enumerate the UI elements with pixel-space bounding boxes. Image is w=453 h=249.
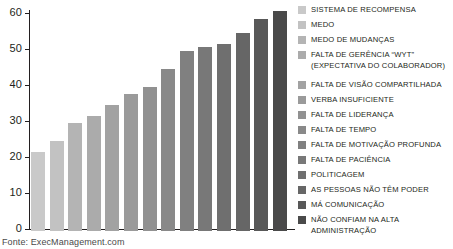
legend-item-label: NÃO CONFIAM NA ALTA ADMINISTRAÇÃO bbox=[311, 214, 399, 236]
legend-item: FALTA DE GERÊNCIA “WYT” (EXPECTATIVA DO … bbox=[298, 49, 453, 79]
legend-item-label: VERBA INSUFICIENTE bbox=[311, 94, 394, 105]
legend-item: POLITICAGEM bbox=[298, 169, 453, 184]
legend-color-swatch bbox=[298, 216, 306, 224]
bar bbox=[236, 33, 250, 231]
legend-item: FALTA DE LIDERANÇA bbox=[298, 109, 453, 124]
bar bbox=[198, 47, 212, 231]
legend-color-swatch bbox=[298, 201, 306, 209]
bar bbox=[161, 69, 175, 231]
bar bbox=[105, 105, 119, 231]
legend-color-swatch bbox=[298, 126, 306, 134]
legend-color-swatch bbox=[298, 156, 306, 164]
legend-item-label: FALTA DE MOTIVAÇÃO PROFUNDA bbox=[311, 139, 441, 150]
legend-item: NÃO CONFIAM NA ALTA ADMINISTRAÇÃO bbox=[298, 214, 453, 244]
bar-chart-figure: 0102030405060 bbox=[0, 0, 298, 249]
bar bbox=[217, 44, 231, 231]
legend-item-label: FALTA DE GERÊNCIA “WYT” (EXPECTATIVA DO … bbox=[311, 49, 445, 71]
bar bbox=[87, 116, 101, 231]
legend-item: MEDO DE MUDANÇAS bbox=[298, 34, 453, 49]
legend-item-label: MÁ COMUNICAÇÃO bbox=[311, 199, 384, 210]
source-note: Fonte: ExecManagement.com bbox=[2, 237, 125, 247]
legend-item-label: AS PESSOAS NÃO TÊM PODER bbox=[311, 184, 429, 195]
legend-color-swatch bbox=[298, 186, 306, 194]
bars-container bbox=[0, 0, 298, 230]
legend-color-swatch bbox=[298, 81, 306, 89]
bar bbox=[31, 152, 45, 231]
legend-item-label: MEDO DE MUDANÇAS bbox=[311, 34, 394, 45]
legend-item-label: SISTEMA DE RECOMPENSA bbox=[311, 4, 416, 15]
bar bbox=[254, 19, 268, 231]
chart-legend: SISTEMA DE RECOMPENSAMEDOMEDO DE MUDANÇA… bbox=[298, 0, 453, 249]
legend-item-label: FALTA DE VISÃO COMPARTILHADA bbox=[311, 79, 442, 90]
legend-item: MEDO bbox=[298, 19, 453, 34]
legend-color-swatch bbox=[298, 111, 306, 119]
bar bbox=[180, 51, 194, 231]
legend-color-swatch bbox=[298, 171, 306, 179]
bar bbox=[273, 11, 287, 231]
bar bbox=[124, 94, 138, 231]
legend-item: FALTA DE PACIÊNCIA bbox=[298, 154, 453, 169]
legend-color-swatch bbox=[298, 21, 306, 29]
legend-color-swatch bbox=[298, 36, 306, 44]
legend-item-label: FALTA DE LIDERANÇA bbox=[311, 109, 394, 120]
legend-color-swatch bbox=[298, 6, 306, 14]
legend-item-label: FALTA DE TEMPO bbox=[311, 124, 376, 135]
legend-item: MÁ COMUNICAÇÃO bbox=[298, 199, 453, 214]
bar bbox=[68, 123, 82, 231]
legend-item: FALTA DE MOTIVAÇÃO PROFUNDA bbox=[298, 139, 453, 154]
legend-item-label: MEDO bbox=[311, 19, 334, 30]
legend-item: FALTA DE VISÃO COMPARTILHADA bbox=[298, 79, 453, 94]
bar bbox=[50, 141, 64, 231]
legend-item: SISTEMA DE RECOMPENSA bbox=[298, 4, 453, 19]
legend-item-label: POLITICAGEM bbox=[311, 169, 365, 180]
legend-item: AS PESSOAS NÃO TÊM PODER bbox=[298, 184, 453, 199]
chart-screenshot: 0102030405060 Fonte: ExecManagement.com … bbox=[0, 0, 453, 249]
legend-color-swatch bbox=[298, 51, 306, 59]
bar bbox=[143, 87, 157, 231]
legend-item-label: FALTA DE PACIÊNCIA bbox=[311, 154, 391, 165]
legend-color-swatch bbox=[298, 96, 306, 104]
legend-item: VERBA INSUFICIENTE bbox=[298, 94, 453, 109]
legend-item: FALTA DE TEMPO bbox=[298, 124, 453, 139]
legend-color-swatch bbox=[298, 141, 306, 149]
